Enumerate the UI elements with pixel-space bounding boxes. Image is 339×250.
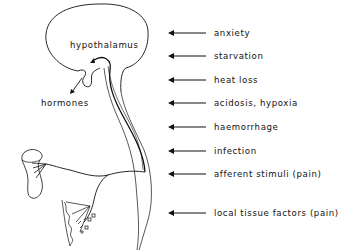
pituitary-stalk — [78, 68, 100, 87]
stimulus-starvation: starvation — [166, 51, 327, 61]
stimulus-label: infection — [214, 146, 257, 156]
stimulus-label: afferent stimuli (pain) — [214, 169, 321, 179]
stimulus-label: haemorrhage — [214, 122, 278, 132]
hormone-arrowhead-icon — [70, 89, 75, 94]
stimulus-label: local tissue factors (pain) — [214, 208, 339, 218]
left-arrow-icon — [166, 122, 206, 132]
stimulus-label: starvation — [214, 51, 263, 61]
stimulus-afferent-pain: afferent stimuli (pain) — [166, 169, 327, 179]
spinal-cord-outer-left — [104, 68, 139, 250]
stimulus-acidosis-hypoxia: acidosis, hypoxia — [166, 98, 327, 108]
organ-top — [22, 160, 40, 162]
stimulus-haemorrhage: haemorrhage — [166, 122, 327, 132]
nerve-branch — [84, 175, 108, 222]
left-arrow-icon — [166, 208, 206, 218]
hypothalamus-label: hypothalamus — [70, 41, 138, 50]
descending-tract-inner — [108, 66, 143, 170]
arrow-to-hypothalamus-icon — [90, 58, 95, 63]
left-arrow-icon — [166, 75, 206, 85]
efferent-nerve — [46, 164, 145, 176]
left-arrow-icon — [166, 28, 206, 38]
hormones-label: hormones — [41, 99, 89, 108]
left-arrow-icon — [166, 146, 206, 156]
hormone-arrow-line — [72, 78, 82, 92]
stimulus-label: acidosis, hypoxia — [214, 98, 298, 108]
descending-tract — [94, 58, 145, 172]
stimulus-anxiety: anxiety — [166, 28, 327, 38]
stimulus-label: heat loss — [214, 75, 258, 85]
stimulus-local-tissue-pain: local tissue factors (pain) — [166, 208, 327, 218]
left-arrow-icon — [166, 98, 206, 108]
left-arrow-icon — [166, 51, 206, 61]
stimulus-heat-loss: heat loss — [166, 75, 327, 85]
left-arrow-icon — [166, 169, 206, 179]
stimulus-label: anxiety — [214, 28, 250, 38]
stimulus-infection: infection — [166, 146, 327, 156]
